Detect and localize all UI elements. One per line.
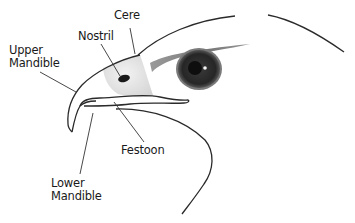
eye-highlight — [203, 66, 207, 70]
label-upper-mandible-line2: Mandible — [9, 57, 60, 69]
leader-cere — [130, 28, 135, 54]
gape-line — [80, 95, 189, 106]
label-festoon: Festoon — [121, 144, 165, 156]
label-nostril: Nostril — [78, 30, 114, 42]
eye — [176, 48, 222, 90]
lower-jaw-outline — [116, 109, 212, 214]
label-upper-mandible-line1: Upper — [9, 44, 43, 56]
label-lower-mandible-line1: Lower — [51, 177, 84, 189]
label-lower-mandible-line2: Mandible — [51, 190, 102, 202]
crown-outline-back — [268, 15, 344, 52]
leader-upper-mandible — [40, 72, 76, 92]
leader-lower-mandible — [80, 113, 93, 174]
label-cere: Cere — [114, 9, 140, 21]
raptor-head-diagram: Cere Nostril Upper Mandible Festoon Lowe… — [0, 0, 355, 223]
eye-pupil — [188, 61, 202, 75]
leader-festoon — [114, 102, 144, 142]
